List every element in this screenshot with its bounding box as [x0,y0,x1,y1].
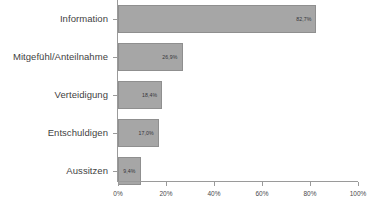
category-label-entschuldigen: Entschuldigen [0,127,108,138]
x-axis-tick-label-100: 100% [338,190,368,198]
category-label-aussitzen: Aussitzen [0,165,108,176]
bar-fill: 82,7% [118,5,316,33]
y-axis-tick [113,95,117,96]
x-axis-tick [118,182,119,186]
bar-fill: 26,9% [118,43,183,71]
x-axis-tick [214,182,215,186]
bar-value-label: 82,7% [296,16,311,22]
category-label-verteidigung: Verteidigung [0,89,108,100]
bar-verteidigung: 18,4% [118,81,162,109]
bar-entschuldigen: 17,0% [118,119,159,147]
plot-area: 82,7% 26,9% 18,4% 17,0% 9,4% [118,0,358,180]
x-axis-tick-label-60: 60% [242,190,282,198]
bar-value-label: 26,9% [162,54,177,60]
bar-value-label: 17,0% [139,130,154,136]
bar-information: 82,7% [118,5,316,33]
bar-fill: 18,4% [118,81,162,109]
x-axis-tick-label-80: 80% [290,190,330,198]
x-axis-tick [166,182,167,186]
y-axis-tick [113,171,117,172]
y-axis-tick [113,57,117,58]
x-axis-line [117,181,358,182]
bar-value-label: 18,4% [142,92,157,98]
x-axis-tick [358,182,359,186]
y-axis-tick [113,19,117,20]
x-axis-tick-label-20: 20% [146,190,186,198]
y-axis-tick [113,133,117,134]
y-axis-line [117,0,118,181]
bar-chart: Information Mitgefühl/Anteilnahme Vertei… [0,0,368,209]
bar-mitgefuehl: 26,9% [118,43,183,71]
category-axis: Information Mitgefühl/Anteilnahme Vertei… [0,0,113,180]
category-label-mitgefuehl: Mitgefühl/Anteilnahme [0,51,108,62]
bar-fill: 17,0% [118,119,159,147]
category-label-information: Information [0,13,108,24]
x-axis-tick [310,182,311,186]
x-axis-tick-label-40: 40% [194,190,234,198]
x-axis-tick-label-0: 0% [98,190,138,198]
bar-value-label: 9,4% [123,168,135,174]
x-axis-tick [262,182,263,186]
